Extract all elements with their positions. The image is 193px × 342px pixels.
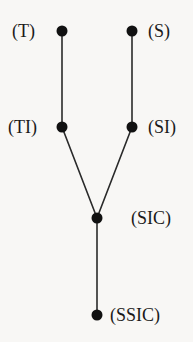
node-ti[interactable] (57, 122, 68, 133)
edge-ti-sic (62, 127, 97, 218)
node-si[interactable] (127, 122, 138, 133)
node-label-si: (SI) (148, 118, 176, 136)
node-label-sic: (SIC) (131, 209, 171, 227)
edge-layer (62, 31, 132, 315)
node-label-ti: (TI) (8, 118, 37, 136)
edge-si-sic (97, 127, 132, 218)
node-label-t: (T) (12, 22, 35, 40)
node-label-s: (S) (148, 22, 170, 40)
node-s[interactable] (127, 26, 138, 37)
node-t[interactable] (57, 26, 68, 37)
node-label-ssic: (SSIC) (110, 306, 160, 324)
node-sic[interactable] (92, 213, 103, 224)
graph-canvas (0, 0, 193, 342)
node-ssic[interactable] (92, 310, 103, 321)
tree-diagram: (T)(S)(TI)(SI)(SIC)(SSIC) (0, 0, 193, 342)
